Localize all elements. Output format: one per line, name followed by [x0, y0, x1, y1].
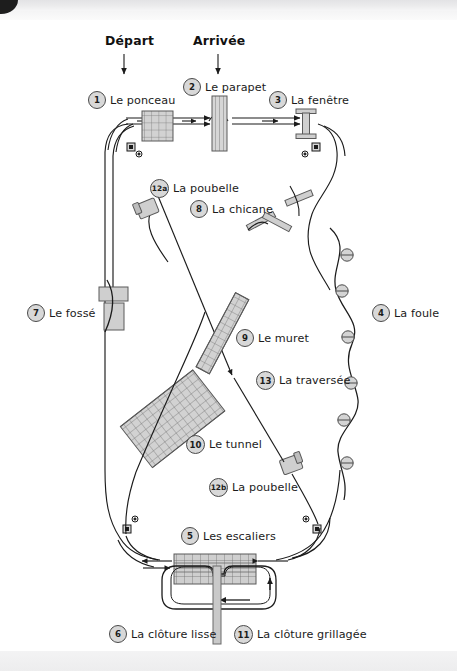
station-marker-12b[interactable]: 12b	[209, 478, 228, 497]
obstacle-poubelle-12a	[132, 198, 159, 219]
obstacle-ponceau	[142, 111, 173, 141]
station-label-6: La clôture lisse	[131, 628, 216, 641]
obstacle-fosse	[99, 287, 128, 330]
station-label-4: La foule	[394, 307, 439, 320]
station-marker-7[interactable]: 7	[27, 304, 45, 322]
course-diagram-page: Départ Arrivée 1 Le ponceau 2 Le parapet…	[0, 0, 457, 671]
station-label-13: La traversée	[279, 374, 350, 387]
obstacle-parapet	[212, 96, 227, 151]
station-marker-2[interactable]: 2	[183, 78, 201, 96]
station-label-11: La clôture grillagée	[257, 628, 367, 641]
station-marker-6[interactable]: 6	[109, 625, 127, 643]
station-label-12b: La poubelle	[232, 481, 298, 494]
station-label-9: Le muret	[258, 332, 309, 345]
station-label-5: Les escaliers	[203, 530, 276, 543]
station-label-2: Le parapet	[205, 81, 266, 94]
start-label: Départ	[105, 33, 154, 48]
station-marker-9[interactable]: 9	[236, 329, 254, 347]
station-marker-5[interactable]: 5	[181, 527, 199, 545]
station-label-1: Le ponceau	[110, 94, 176, 107]
station-marker-12a[interactable]: 12a	[150, 179, 169, 198]
station-marker-8[interactable]: 8	[190, 200, 208, 218]
station-label-7: Le fossé	[49, 307, 96, 320]
course-artwork	[0, 0, 457, 671]
station-label-3: La fenêtre	[291, 94, 349, 107]
station-marker-11[interactable]: 11	[234, 625, 253, 644]
finish-label: Arrivée	[193, 33, 245, 48]
station-marker-10[interactable]: 10	[186, 435, 205, 454]
station-marker-4[interactable]: 4	[372, 304, 390, 322]
station-label-8: La chicane	[212, 203, 273, 216]
obstacle-poubelle-12b	[279, 451, 303, 475]
station-label-10: Le tunnel	[209, 438, 262, 451]
crowd-markers	[336, 249, 357, 469]
station-marker-3[interactable]: 3	[269, 91, 287, 109]
station-label-12a: La poubelle	[173, 182, 239, 195]
station-marker-13[interactable]: 13	[256, 371, 275, 390]
station-marker-1[interactable]: 1	[88, 91, 106, 109]
obstacle-tunnel	[120, 370, 225, 468]
